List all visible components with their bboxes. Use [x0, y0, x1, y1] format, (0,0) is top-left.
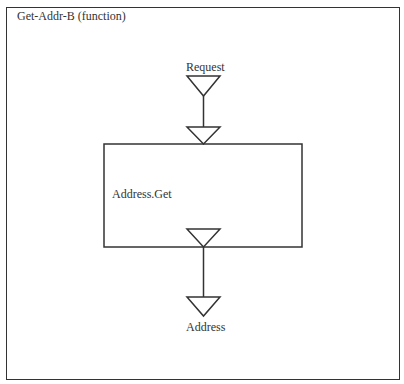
input-label: Request [186, 60, 225, 75]
box-input-triangle-icon [187, 127, 220, 144]
output-label: Address [186, 320, 225, 335]
process-label: Address.Get [112, 187, 172, 202]
input-triangle-icon [187, 76, 220, 96]
output-triangle-icon [187, 297, 220, 316]
box-output-triangle-icon [187, 229, 220, 247]
